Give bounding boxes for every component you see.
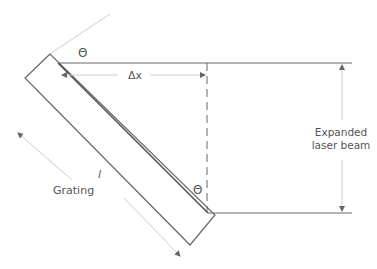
length-arrow-upper — [18, 133, 72, 180]
length-label: l — [98, 168, 101, 181]
grating-rectangle — [25, 54, 215, 245]
beam-label-line1: Expanded — [315, 126, 367, 138]
theta-bottom-label: Θ — [193, 183, 202, 197]
theta-top-label: Θ — [78, 46, 87, 60]
delta-x-label: Δx — [128, 69, 143, 82]
beam-label-line2: laser beam — [312, 139, 371, 151]
grating-diagram: Θ Δx Θ l Grating Expanded laser beam — [0, 0, 377, 269]
grating-label: Grating — [53, 184, 94, 197]
